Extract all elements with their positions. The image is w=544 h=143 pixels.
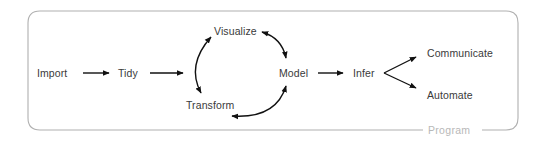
workflow-diagram: Import Tidy Visualize Transform Model In… (0, 0, 544, 143)
arrow-infer-communicate (384, 57, 416, 73)
arrow-infer-automate (384, 73, 416, 88)
node-communicate: Communicate (427, 47, 493, 59)
program-container-label: Program (423, 124, 475, 136)
node-tidy: Tidy (118, 67, 138, 79)
arc-model-transform (232, 86, 286, 116)
node-model: Model (279, 67, 308, 79)
node-automate: Automate (427, 89, 473, 101)
node-import: Import (37, 67, 67, 79)
node-visualize: Visualize (214, 25, 257, 37)
node-infer: Infer (353, 67, 375, 79)
diagram-graphics (0, 0, 544, 143)
arc-visualize-model (262, 32, 286, 58)
node-transform: Transform (186, 99, 234, 111)
arc-visualize-transform (195, 37, 211, 93)
program-container-border (28, 11, 518, 130)
